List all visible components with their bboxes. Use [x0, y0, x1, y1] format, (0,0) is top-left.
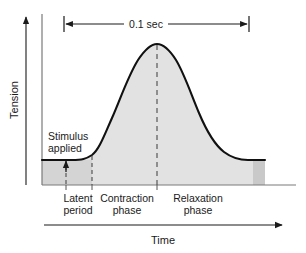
twitch-curve-chart: Tension 0.1 sec Stimulus applied Latent [0, 0, 306, 253]
phase-labels-group: Latent period Contraction phase Relaxati… [63, 192, 223, 216]
muscle-twitch-figure: Tension 0.1 sec Stimulus applied Latent [0, 0, 306, 253]
phase-label-latent-line1: Latent [63, 192, 92, 204]
stimulus-label-line1: Stimulus [48, 130, 88, 142]
phase-label-latent-line2: period [63, 204, 92, 216]
phase-label-contraction-line1: Contraction [100, 192, 154, 204]
duration-dimension-group: 0.1 sec [64, 16, 249, 32]
phase-label-contraction-line2: phase [113, 204, 142, 216]
tension-axis-arrow-group: Tension [8, 17, 26, 185]
duration-label: 0.1 sec [129, 18, 163, 30]
phase-label-relaxation-line2: phase [184, 204, 213, 216]
phase-label-relaxation-line1: Relaxation [173, 192, 223, 204]
x-axis-label: Time [151, 234, 175, 246]
time-axis-arrow-group: Time [44, 225, 282, 246]
relaxation-tail-shade-block [253, 160, 265, 185]
curve-fill-group [42, 44, 265, 185]
latent-shade-block [42, 160, 92, 185]
stimulus-label-line2: applied [48, 142, 82, 154]
y-axis-label: Tension [8, 81, 20, 119]
